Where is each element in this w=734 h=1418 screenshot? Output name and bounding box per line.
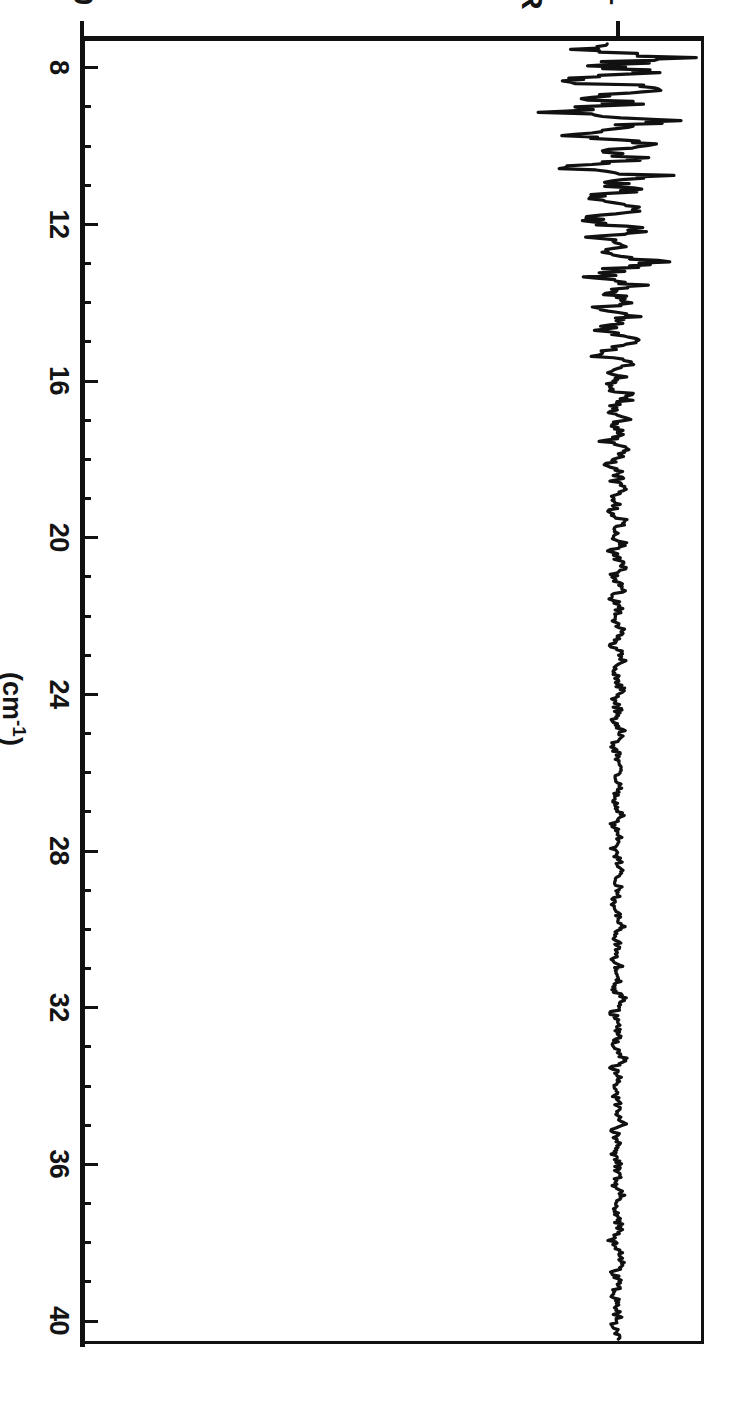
x-tick-major bbox=[82, 1163, 98, 1166]
x-tick-major bbox=[82, 380, 98, 383]
x-axis-ticks bbox=[82, 36, 704, 1344]
x-tick-major bbox=[82, 536, 98, 539]
x-tick-major bbox=[82, 850, 98, 853]
y-tick-label: 0 bbox=[67, 0, 98, 5]
x-tick-label: 40 bbox=[43, 1306, 74, 1335]
x-tick-label: 32 bbox=[43, 993, 74, 1022]
x-tick-minor bbox=[82, 497, 91, 500]
x-tick-major bbox=[82, 693, 98, 696]
x-tick-minor bbox=[82, 889, 91, 892]
x-tick-minor bbox=[82, 262, 91, 265]
x-tick-label: 8 bbox=[43, 60, 74, 75]
y-tick-label: 1 bbox=[603, 0, 634, 5]
x-tick-minor bbox=[82, 575, 91, 578]
x-tick-major bbox=[82, 1320, 98, 1323]
x-axis-title-close: ) bbox=[0, 737, 27, 746]
x-tick-minor bbox=[82, 615, 91, 618]
x-tick-minor bbox=[82, 967, 91, 970]
x-tick-minor bbox=[82, 1202, 91, 1205]
x-axis-title-text: (cm bbox=[0, 672, 27, 720]
rotated-figure-wrapper: 81216202428323640 01R (cm-1) bbox=[0, 0, 734, 1418]
x-tick-minor bbox=[82, 1124, 91, 1127]
x-tick-minor bbox=[82, 340, 91, 343]
figure-page: 81216202428323640 01R (cm-1) bbox=[0, 0, 734, 1418]
x-tick-minor bbox=[82, 732, 91, 735]
y-tick bbox=[616, 21, 620, 37]
x-tick-major bbox=[82, 66, 98, 69]
x-tick-minor bbox=[82, 654, 91, 657]
x-tick-minor bbox=[82, 419, 91, 422]
x-tick-label: 24 bbox=[43, 679, 74, 708]
x-tick-label: 28 bbox=[43, 836, 74, 865]
x-tick-minor bbox=[82, 810, 91, 813]
x-axis-title: (cm-1) bbox=[0, 0, 30, 1418]
x-tick-minor bbox=[82, 105, 91, 108]
x-tick-label: 16 bbox=[43, 366, 74, 395]
x-tick-major bbox=[82, 223, 98, 226]
x-tick-minor bbox=[82, 458, 91, 461]
x-tick-minor bbox=[82, 301, 91, 304]
x-tick-minor bbox=[82, 145, 91, 148]
x-tick-minor bbox=[82, 184, 91, 187]
x-tick-minor bbox=[82, 771, 91, 774]
x-tick-minor bbox=[82, 1085, 91, 1088]
y-tick bbox=[80, 21, 84, 37]
x-tick-major bbox=[82, 1006, 98, 1009]
x-tick-minor bbox=[82, 1280, 91, 1283]
x-tick-minor bbox=[82, 928, 91, 931]
x-tick-label: 36 bbox=[43, 1149, 74, 1178]
x-tick-label: 12 bbox=[43, 209, 74, 238]
x-axis-title-superscript: -1 bbox=[9, 720, 30, 737]
x-tick-label: 20 bbox=[43, 523, 74, 552]
x-axis-tick-labels: 81216202428323640 bbox=[28, 36, 74, 1344]
y-axis-title: R bbox=[515, 0, 549, 10]
x-tick-minor bbox=[82, 1241, 91, 1244]
x-tick-minor bbox=[82, 1045, 91, 1048]
